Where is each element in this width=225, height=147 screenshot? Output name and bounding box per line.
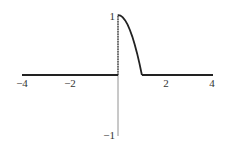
x-tick-label: 2	[163, 77, 169, 89]
x-tick-label: 4	[209, 77, 215, 89]
y-tick-label: 1	[110, 10, 116, 22]
x-tick-label: −2	[64, 77, 76, 89]
function-curve	[118, 15, 142, 75]
chart: −4 −2 2 4 1 −1	[0, 0, 225, 147]
y-tick-label: −1	[103, 129, 115, 141]
x-tick-label: −4	[16, 77, 28, 89]
